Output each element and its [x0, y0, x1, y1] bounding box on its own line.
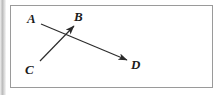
figure-border: [10, 5, 213, 88]
vertex-label-b: B: [74, 10, 83, 23]
figure-root: A B C D: [0, 0, 224, 95]
page-edge-artifact: [0, 0, 6, 95]
vertex-label-c: C: [25, 63, 34, 76]
vertex-label-a: A: [27, 12, 36, 25]
vertex-label-d: D: [131, 58, 140, 71]
